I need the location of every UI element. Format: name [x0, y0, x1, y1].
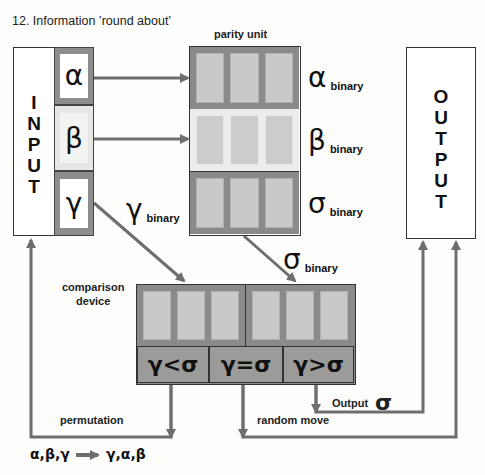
- sigma-binary-arrow-label: σbinary: [283, 246, 338, 282]
- result-gamma-greater-sigma: γ>σ: [283, 346, 354, 383]
- gamma-binary-arrow-label: γbinary: [126, 196, 180, 232]
- parity-row-sigma: [190, 172, 299, 234]
- comparison-device-label: comparison device: [62, 280, 124, 308]
- output-box: O U T P U T: [406, 47, 476, 239]
- comparison-register-left: [137, 285, 246, 346]
- parity-row-beta: [190, 109, 299, 172]
- input-label: I N P U T: [14, 92, 54, 197]
- parity-unit: [189, 46, 301, 236]
- permutation-rule-from: α,β,γ: [30, 446, 70, 462]
- output-sigma-label: Output σ: [332, 390, 392, 415]
- random-move-label: random move: [257, 414, 329, 426]
- permutation-rule-to: γ,α,β: [106, 446, 146, 462]
- sigma-binary-label: σbinary: [308, 190, 363, 226]
- result-gamma-equal-sigma: γ=σ: [209, 346, 283, 383]
- input-box: I N P U T: [13, 47, 55, 236]
- parity-unit-label: parity unit: [214, 28, 267, 40]
- output-label: O U T P U T: [407, 86, 475, 212]
- input-cell-alpha: α: [54, 47, 94, 105]
- input-cell-gamma: γ: [54, 171, 94, 236]
- input-cell-beta: β: [54, 105, 94, 171]
- figure-title: 12. Information ’round about’: [12, 14, 171, 28]
- parity-row-alpha: [190, 47, 299, 109]
- alpha-binary-label: αbinary: [308, 64, 363, 100]
- permutation-label: permutation: [60, 414, 124, 426]
- beta-binary-label: βbinary: [308, 127, 363, 163]
- comparison-device: γ<σ γ=σ γ>σ: [136, 284, 356, 385]
- result-gamma-less-sigma: γ<σ: [137, 346, 209, 383]
- comparison-register-right: [246, 285, 354, 346]
